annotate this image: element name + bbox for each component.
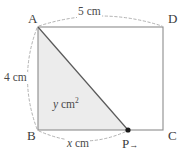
dimension-arc-left <box>28 28 38 129</box>
geometry-figure: A D B C 5 cm 4 cm x cm y cm2 P→ <box>0 0 188 154</box>
area-label-exponent: 2 <box>75 96 79 105</box>
dimension-label-left: 4 cm <box>3 72 28 84</box>
vertex-label-c: C <box>168 129 177 142</box>
area-label-unit: cm <box>61 98 75 110</box>
vertex-label-d: D <box>168 12 177 25</box>
dimension-arc-top <box>39 16 162 26</box>
area-label: y cm2 <box>53 99 79 111</box>
dimension-label-bottom: x cm <box>66 138 90 150</box>
point-label-p: P→ <box>122 137 138 150</box>
vertex-label-b: B <box>27 129 36 142</box>
vertex-label-a: A <box>28 12 37 25</box>
arrow-right-icon: → <box>129 140 138 150</box>
area-label-variable: y <box>53 98 58 110</box>
dimension-label-top: 5 cm <box>77 6 102 18</box>
point-marker-P <box>125 127 130 132</box>
dimension-label-bottom-variable: x <box>67 137 72 149</box>
